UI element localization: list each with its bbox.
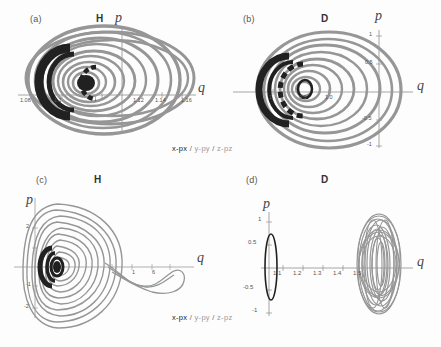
caption-2-z-pz: z-pz xyxy=(217,313,232,322)
caption-row-1: x-px / y-py / z-pz xyxy=(172,144,232,153)
panel-a-core-blob xyxy=(77,75,95,91)
panel-c-ytick-2: -1 xyxy=(26,281,31,287)
panel-d-ytick-2: -0.5 xyxy=(243,284,253,290)
caption-2-sep-2: / xyxy=(210,313,217,322)
panel-d-xtick-0: 1.1 xyxy=(273,270,281,276)
panel-d-ytick-1: 0.5 xyxy=(248,239,256,245)
caption-2-sep-1: / xyxy=(187,313,194,322)
panel-d-ytick-3: -1 xyxy=(252,307,257,313)
panel-a-plot xyxy=(0,0,220,150)
panel-d-xtick-4: 1.5 xyxy=(353,270,361,276)
caption-1-z-pz: z-pz xyxy=(217,144,232,153)
caption-2-y-py: y-py xyxy=(195,313,210,322)
panel-b-ytick-0: 1 xyxy=(369,31,372,37)
panel-d-ticks xyxy=(266,222,363,313)
figure-canvas: (a) H p q xyxy=(0,0,441,347)
panel-c-ytick-0: 2 xyxy=(26,223,29,229)
panel-a: (a) H p q xyxy=(0,0,220,150)
panel-d-xtick-3: 1.4 xyxy=(333,270,341,276)
panel-a-xtick-0: 1.08 xyxy=(20,97,31,103)
panel-c-ytick-3: -2 xyxy=(24,303,29,309)
panel-a-xtick-3: 1.14 xyxy=(155,97,166,103)
panel-b-ytick-2: -0.5 xyxy=(362,115,371,121)
caption-1-x-px: x-px xyxy=(172,144,187,153)
panel-b-ytick-3: -1 xyxy=(367,141,372,147)
panel-b-xtick-2: 1.0 xyxy=(325,94,333,100)
panel-c-xtick-1: 6 xyxy=(152,269,155,275)
panel-b-xtick-1: 0.5 xyxy=(299,94,307,100)
panel-d: (d) D p q xyxy=(221,168,441,318)
panel-c-core-blob xyxy=(53,261,61,273)
panel-c: (c) H p q xyxy=(0,168,220,318)
panel-b-ytick-1: 0.5 xyxy=(365,59,373,65)
caption-1-sep-1: / xyxy=(187,144,194,153)
panel-a-xtick-4: 1.16 xyxy=(181,97,192,103)
panel-d-ytick-0: 1 xyxy=(258,216,261,222)
caption-2-x-px: x-px xyxy=(172,313,187,322)
panel-c-plot xyxy=(0,168,220,318)
panel-a-xtick-1: 1.1 xyxy=(54,97,62,103)
panel-b-xtick-0: 1 xyxy=(269,94,272,100)
panel-d-xtick-2: 1.3 xyxy=(313,270,321,276)
panel-a-xtick-2: 1.12 xyxy=(133,97,144,103)
caption-1-y-py: y-py xyxy=(195,144,210,153)
caption-row-2: x-px / y-py / z-pz xyxy=(172,313,232,322)
panel-b: (b) D p q xyxy=(221,0,441,150)
panel-b-plot xyxy=(221,0,441,150)
panel-d-right-cluster xyxy=(357,214,401,314)
caption-1-sep-2: / xyxy=(210,144,217,153)
panel-b-gray-orbits xyxy=(257,32,401,148)
panel-d-xtick-1: 1.2 xyxy=(293,270,301,276)
panel-c-xtick-0: 1 xyxy=(132,269,135,275)
